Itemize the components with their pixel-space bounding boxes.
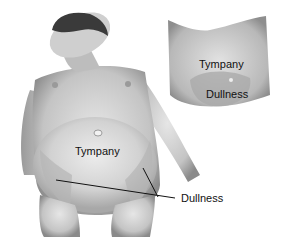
navel bbox=[94, 130, 102, 136]
inset-tympany-label: Tympany bbox=[199, 58, 244, 70]
illustration bbox=[0, 0, 286, 237]
inset-dullness-label: Dullness bbox=[206, 88, 248, 100]
main-tympany-label: Tympany bbox=[75, 145, 120, 157]
main-dullness-label: Dullness bbox=[181, 192, 223, 204]
